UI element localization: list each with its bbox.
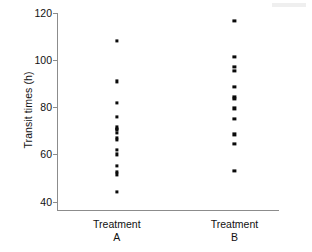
data-point xyxy=(115,101,118,104)
data-point xyxy=(115,191,118,194)
data-point xyxy=(115,80,118,83)
y-tick-label: 40 xyxy=(40,196,52,208)
y-axis-label: Transit times (h) xyxy=(22,30,34,190)
data-point xyxy=(115,40,118,43)
y-tick-label: 100 xyxy=(34,54,52,66)
data-point xyxy=(115,139,118,142)
x-tick-label-treatment-b: TreatmentB xyxy=(211,210,258,244)
data-point xyxy=(233,142,236,145)
x-tick-label-line1: Treatment xyxy=(211,218,258,231)
data-point xyxy=(233,117,236,120)
y-tick-label: 80 xyxy=(40,101,52,113)
data-point xyxy=(233,69,236,72)
data-point xyxy=(115,115,118,118)
data-point xyxy=(233,97,236,100)
y-tick-label: 60 xyxy=(40,148,52,160)
data-point xyxy=(115,148,118,151)
data-point xyxy=(115,165,118,168)
data-point xyxy=(115,153,118,156)
y-tick-mark xyxy=(53,13,58,14)
data-point xyxy=(233,20,236,23)
x-tick-label-line2: B xyxy=(211,231,258,244)
page-artifact-mark xyxy=(272,3,306,7)
x-tick-label-line1: Treatment xyxy=(93,218,140,231)
y-tick-label: 120 xyxy=(34,7,52,19)
data-point xyxy=(115,173,118,176)
y-tick-mark xyxy=(53,60,58,61)
y-tick-mark xyxy=(53,154,58,155)
dot-plot-figure: Transit times (h) 406080100120 Treatment… xyxy=(0,0,312,252)
data-point xyxy=(233,86,236,89)
data-point xyxy=(233,133,236,136)
plot-area: 406080100120 TreatmentATreatmentB xyxy=(57,13,279,211)
data-point xyxy=(233,55,236,58)
data-point xyxy=(233,169,236,172)
data-point xyxy=(233,107,236,110)
x-tick-label-treatment-a: TreatmentA xyxy=(93,210,140,244)
y-tick-mark xyxy=(53,202,58,203)
y-tick-mark xyxy=(53,107,58,108)
data-point xyxy=(115,132,118,135)
x-tick-label-line2: A xyxy=(93,231,140,244)
